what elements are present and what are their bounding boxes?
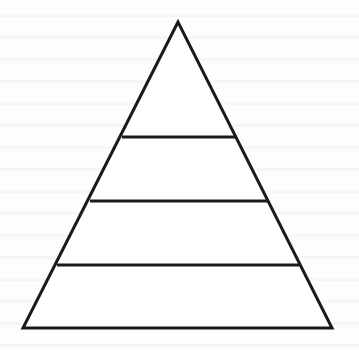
- pyramid-diagram-canvas: [0, 0, 359, 350]
- pyramid-outline: [23, 22, 332, 328]
- pyramid-diagram: [0, 0, 359, 350]
